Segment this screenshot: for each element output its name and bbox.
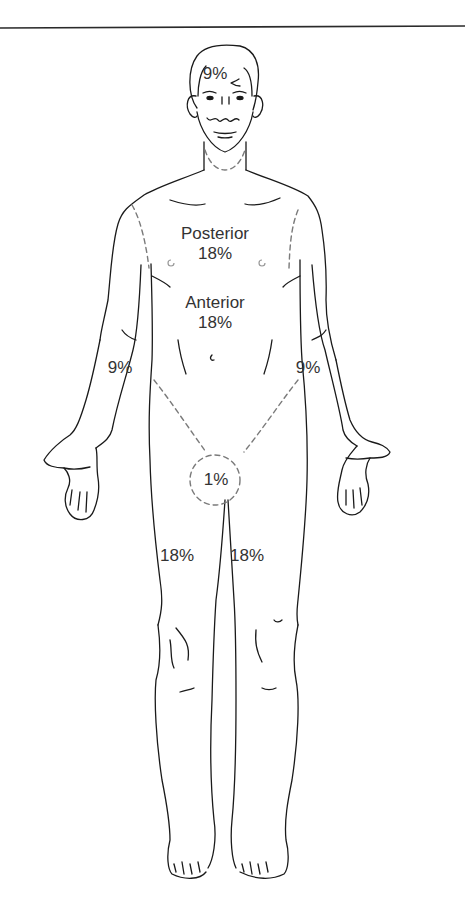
right-groin-boundary [244,380,298,452]
neck-boundary [205,150,245,170]
right-arm-percent: 9% [108,358,133,377]
left-shoulder-boundary [132,205,149,268]
trunk-anterior-label: Anterior [185,293,245,312]
head-percent-label: 9% [203,64,228,83]
jaw [197,112,253,152]
top-rule [0,26,465,28]
left-arm-percent: 9% [296,358,321,377]
perineum-percent: 1% [204,470,229,489]
trunk-posterior-percent: 18% [198,244,232,263]
right-leg-percent: 18% [160,546,194,565]
left-groin-boundary [154,380,206,452]
rule-of-nines-diagram: 9% Posterior 18% Anterior 18% 9% 9% 1% 1… [0,0,465,902]
trunk-anterior-percent: 18% [198,313,232,332]
right-shoulder-boundary [289,210,298,268]
trunk-posterior-label: Posterior [181,224,249,243]
left-leg-percent: 18% [230,546,264,565]
body-outline [0,0,465,902]
